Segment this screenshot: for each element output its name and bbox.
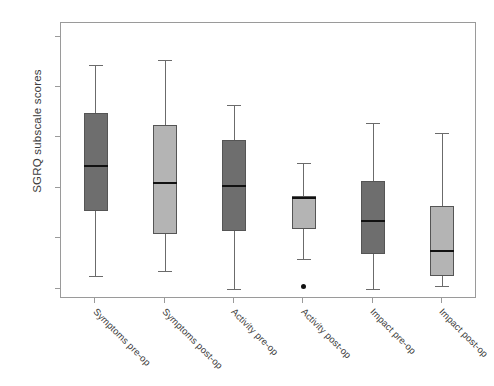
whisker-cap-lower xyxy=(435,286,449,287)
x-tick-label: Symptoms pre-op xyxy=(91,306,153,368)
plot-area xyxy=(60,22,476,298)
x-tick-label: Impact post-op xyxy=(438,306,491,359)
x-tick-mark xyxy=(372,298,373,303)
x-tick-mark xyxy=(441,298,442,303)
x-tick-mark xyxy=(233,298,234,303)
whisker-upper xyxy=(442,133,443,206)
x-tick-label: Symptoms post-op xyxy=(160,306,225,371)
x-tick-mark xyxy=(94,298,95,303)
boxplot-6 xyxy=(61,23,475,297)
y-axis-title: SGRQ subscale scores xyxy=(31,31,43,231)
x-tick-label: Activity pre-op xyxy=(230,306,281,357)
x-tick-label: Activity post-op xyxy=(299,306,353,360)
box-iqr xyxy=(430,206,454,277)
x-tick-mark xyxy=(164,298,165,303)
whisker-lower xyxy=(442,276,443,286)
x-tick-label: Impact pre-op xyxy=(368,306,418,356)
x-tick-mark xyxy=(302,298,303,303)
median-line xyxy=(430,250,454,252)
boxplot-figure: SGRQ subscale scores 020406080100 Sympto… xyxy=(0,0,494,386)
whisker-cap-upper xyxy=(435,133,449,134)
